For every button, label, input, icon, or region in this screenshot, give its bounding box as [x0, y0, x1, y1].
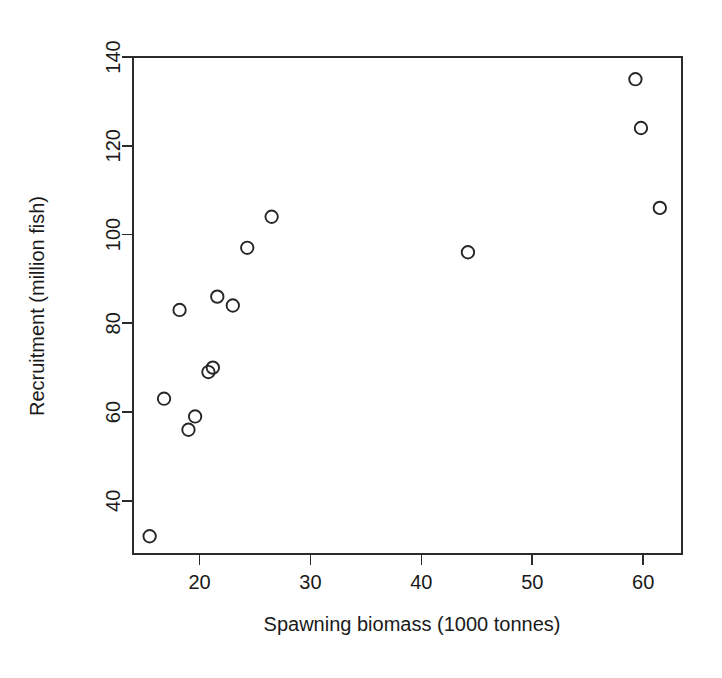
data-point-marker: [189, 410, 201, 422]
x-tick-label: 40: [410, 571, 432, 593]
data-point-marker: [143, 530, 155, 542]
data-point-marker: [182, 424, 194, 436]
scatter-plot-figure: 2030405060406080100120140 Spawning bioma…: [0, 0, 722, 678]
data-point-marker: [635, 122, 647, 134]
data-point-marker: [158, 392, 170, 404]
axis-tick-labels: 2030405060406080100120140: [102, 40, 654, 593]
x-tick-label: 20: [188, 571, 210, 593]
x-tick-label: 50: [521, 571, 543, 593]
plot-frame: [133, 57, 682, 554]
y-tick-label: 40: [102, 490, 124, 512]
y-tick-label: 60: [102, 401, 124, 423]
y-tick-label: 80: [102, 312, 124, 334]
axis-ticks: [122, 57, 643, 565]
x-tick-label: 60: [632, 571, 654, 593]
data-points: [143, 73, 666, 542]
data-point-marker: [654, 202, 666, 214]
data-point-marker: [241, 242, 253, 254]
y-tick-label: 140: [102, 40, 124, 73]
x-tick-label: 30: [299, 571, 321, 593]
data-point-marker: [265, 211, 277, 223]
y-axis-title: Recruitment (million fish): [26, 196, 48, 416]
plot-canvas: 2030405060406080100120140 Spawning bioma…: [0, 0, 722, 678]
x-axis-title: Spawning biomass (1000 tonnes): [264, 613, 561, 635]
data-point-marker: [629, 73, 641, 85]
data-point-marker: [211, 290, 223, 302]
data-point-marker: [227, 299, 239, 311]
y-tick-label: 120: [102, 129, 124, 162]
axes: [133, 57, 682, 554]
data-point-marker: [173, 304, 185, 316]
y-tick-label: 100: [102, 218, 124, 251]
data-point-marker: [462, 246, 474, 258]
